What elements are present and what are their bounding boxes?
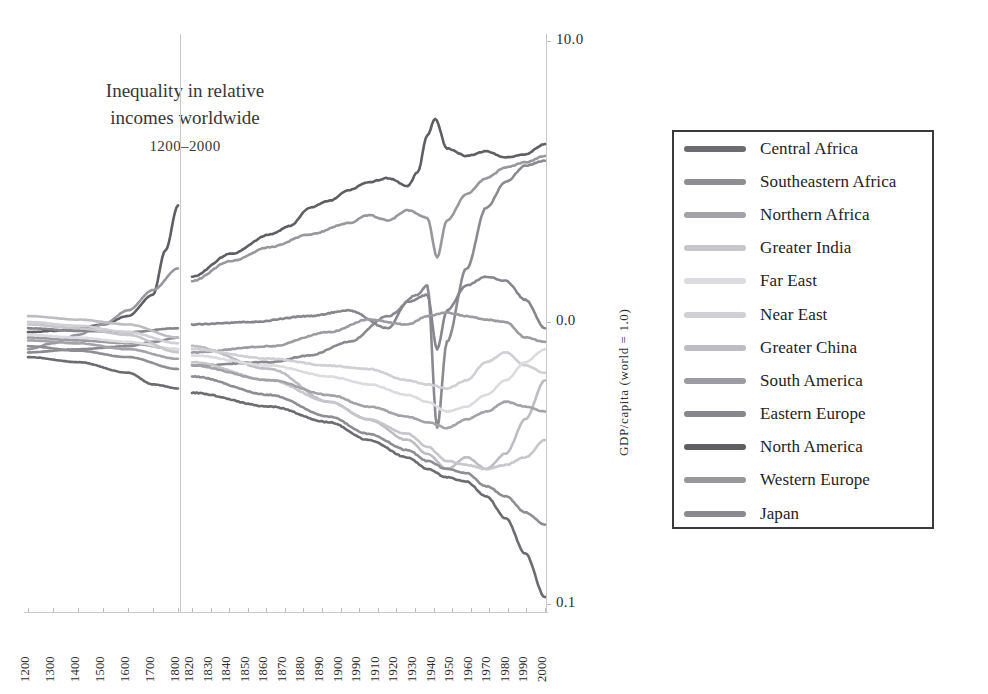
series-segment <box>192 362 545 469</box>
legend-item-label: Far East <box>760 271 817 291</box>
legend-item[interactable]: Eastern Europe <box>674 398 932 431</box>
legend-item[interactable]: Central Africa <box>674 132 932 165</box>
legend-item-label: Near East <box>760 305 827 325</box>
legend-item[interactable]: Northern Africa <box>674 198 932 231</box>
legend-swatch-icon <box>684 278 746 284</box>
legend-swatch-icon <box>684 212 746 218</box>
legend-item-label: South America <box>760 371 863 391</box>
legend-item[interactable]: Western Europe <box>674 464 932 497</box>
series-segment <box>28 357 178 389</box>
legend: Central AfricaSoutheastern AfricaNorther… <box>672 130 934 529</box>
legend-item[interactable]: Japan <box>674 497 932 530</box>
legend-item-label: Eastern Europe <box>760 404 866 424</box>
legend-item[interactable]: South America <box>674 364 932 397</box>
legend-swatch-icon <box>684 345 746 351</box>
legend-item-label: Western Europe <box>760 470 870 490</box>
series-japan <box>28 161 545 428</box>
legend-item[interactable]: Far East <box>674 265 932 298</box>
series-segment <box>192 312 545 352</box>
legend-item[interactable]: Near East <box>674 298 932 331</box>
legend-item[interactable]: Southeastern Africa <box>674 165 932 198</box>
series-segment <box>28 346 178 369</box>
cropped-caption <box>96 682 516 694</box>
series-segment <box>192 161 545 428</box>
legend-swatch-icon <box>684 179 746 185</box>
series-north-america <box>28 119 545 332</box>
legend-item[interactable]: Greater China <box>674 331 932 364</box>
legend-swatch-icon <box>684 146 746 152</box>
series-segment <box>192 392 545 597</box>
series-segment <box>192 156 545 281</box>
legend-item-label: Greater China <box>760 338 857 358</box>
legend-item[interactable]: North America <box>674 431 932 464</box>
legend-item-label: North America <box>760 437 863 457</box>
series-segment <box>192 119 545 277</box>
series-segment <box>28 205 178 332</box>
series-segment <box>192 277 545 350</box>
legend-swatch-icon <box>684 511 746 517</box>
series-segment <box>192 349 545 389</box>
series-eastern-europe <box>28 277 545 350</box>
series-southeastern-africa <box>28 346 545 525</box>
legend-item-label: Northern Africa <box>760 205 870 225</box>
legend-swatch-icon <box>684 444 746 450</box>
series-central-africa <box>28 357 545 597</box>
series-western-europe <box>28 156 545 349</box>
legend-swatch-icon <box>684 378 746 384</box>
legend-item[interactable]: Greater India <box>674 232 932 265</box>
legend-swatch-icon <box>684 312 746 318</box>
legend-swatch-icon <box>684 245 746 251</box>
legend-swatch-icon <box>684 411 746 417</box>
legend-item-label: Greater India <box>760 238 851 258</box>
legend-item-label: Southeastern Africa <box>760 172 896 192</box>
figure-canvas: Inequality in relative incomes worldwide… <box>0 0 988 694</box>
legend-item-label: Japan <box>760 504 799 524</box>
legend-item-label: Central Africa <box>760 139 858 159</box>
legend-swatch-icon <box>684 477 746 483</box>
